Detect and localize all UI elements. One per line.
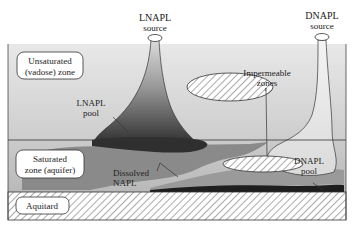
- lnapl-source-icon: [148, 35, 162, 42]
- dnapl-source-sub: source: [310, 21, 334, 31]
- lnapl-source-sub: source: [143, 23, 167, 33]
- lnapl-pool-label: LNAPL: [77, 98, 106, 108]
- saturated-zone-label: Saturated: [33, 154, 67, 164]
- impermeable-zone-lower: [223, 156, 303, 172]
- dissolved-napl-sub: NAPL: [113, 178, 137, 188]
- aquitard-label: Aquitard: [26, 201, 58, 211]
- dnapl-source-icon: [315, 34, 329, 41]
- dissolved-napl-label: Dissolved: [113, 168, 150, 178]
- lnapl-pool-sub: pool: [83, 108, 100, 118]
- lnapl-source-label: LNAPL: [139, 12, 171, 23]
- dnapl-source-label: DNAPL: [305, 10, 338, 21]
- unsaturated-zone-label: Unsaturated: [28, 56, 72, 66]
- saturated-zone-sub: zone (aquifer): [25, 165, 76, 175]
- dnapl-pool-sub: pool: [301, 166, 318, 176]
- impermeable-zones-label: Impermeable: [243, 68, 290, 78]
- unsaturated-zone-sub: (vadose) zone: [25, 67, 75, 77]
- impermeable-zones-sub: zones: [257, 78, 278, 88]
- dnapl-pool-label: DNAPL: [294, 156, 324, 166]
- napl-contamination-diagram: LNAPL source DNAPL source Unsaturated (v…: [0, 0, 364, 230]
